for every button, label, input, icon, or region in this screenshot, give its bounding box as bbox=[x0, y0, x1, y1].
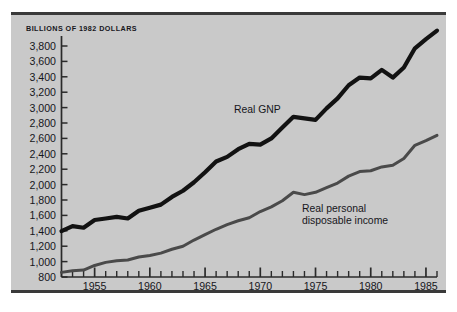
y-axis-tick-label: 800 bbox=[14, 271, 56, 283]
series-line-real-gnp bbox=[62, 31, 438, 232]
figure-container: BILLIONS OF 1982 DOLLARS 3,8003,6003,400… bbox=[0, 0, 457, 312]
series-label-real-gnp: Real GNP bbox=[234, 104, 281, 116]
y-axis-tick-label: 2,800 bbox=[14, 117, 56, 129]
x-axis-tick-label: 1970 bbox=[248, 280, 272, 292]
series-label-real-personal-disposable-income: Real personaldisposable income bbox=[302, 203, 388, 226]
y-axis-tick-label: 3,600 bbox=[14, 55, 56, 67]
y-axis-tick-label: 2,600 bbox=[14, 132, 56, 144]
series-label-line: Real personal bbox=[302, 203, 388, 215]
y-axis-tick-label: 3,000 bbox=[14, 102, 56, 114]
x-axis-tick-label: 1975 bbox=[304, 280, 328, 292]
x-axis-tick-label: 1960 bbox=[138, 280, 162, 292]
x-axis-tick-label: 1985 bbox=[414, 280, 438, 292]
y-axis-tick-label: 3,800 bbox=[14, 40, 56, 52]
y-axis-tick-label: 3,200 bbox=[14, 86, 56, 98]
y-axis-tick-label: 3,400 bbox=[14, 71, 56, 83]
x-axis-tick-label: 1980 bbox=[359, 280, 383, 292]
x-axis-tick-label: 1965 bbox=[193, 280, 217, 292]
series-label-line: disposable income bbox=[302, 215, 388, 227]
series-group bbox=[62, 31, 438, 273]
y-axis-tick-label: 1,400 bbox=[14, 225, 56, 237]
plot-area bbox=[0, 0, 457, 312]
y-axis-tick-label: 2,400 bbox=[14, 148, 56, 160]
y-axis-tick-label: 1,000 bbox=[14, 256, 56, 268]
y-axis-tick-label: 1,200 bbox=[14, 240, 56, 252]
x-axis-tick-label: 1955 bbox=[83, 280, 107, 292]
y-axis-tick-label: 1,600 bbox=[14, 209, 56, 221]
y-axis-tick-label: 2,200 bbox=[14, 163, 56, 175]
y-axis-tick-label: 2,000 bbox=[14, 179, 56, 191]
y-axis-tick-label: 1,800 bbox=[14, 194, 56, 206]
